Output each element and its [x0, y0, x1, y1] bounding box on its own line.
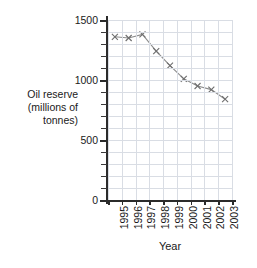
- y-axis-major-tick: [100, 200, 107, 202]
- gridline-vertical: [108, 20, 109, 200]
- data-point-marker: [153, 48, 159, 54]
- y-axis-tick-label: 500: [64, 135, 98, 145]
- gridline-horizontal: [108, 44, 232, 45]
- gridline-horizontal: [108, 68, 232, 69]
- x-axis-tick: [191, 200, 193, 205]
- x-axis-line: [106, 200, 236, 202]
- x-axis-tick-label: 1999: [174, 206, 185, 229]
- x-axis-tick: [204, 200, 206, 205]
- y-axis-minor-tick: [101, 176, 107, 177]
- plot-area: [108, 20, 232, 200]
- y-axis-tick-label: 1000: [64, 75, 98, 85]
- gridline-vertical: [232, 20, 233, 200]
- y-axis-major-tick: [100, 140, 107, 142]
- gridline-horizontal: [108, 140, 232, 141]
- y-axis-tick-labels: 050010001500: [62, 0, 98, 268]
- x-axis-tick-label: 2001: [202, 206, 213, 229]
- y-axis-minor-tick: [101, 104, 107, 105]
- gridline-horizontal: [108, 104, 232, 105]
- gridline-vertical: [122, 20, 123, 200]
- x-axis-tick-label: 2000: [188, 206, 199, 229]
- y-axis-minor-tick: [101, 116, 107, 117]
- x-axis-tick: [122, 200, 124, 205]
- x-axis-tick: [136, 200, 138, 205]
- x-axis-tick: [232, 200, 234, 205]
- x-axis-tick: [163, 200, 165, 205]
- y-axis-minor-tick: [101, 188, 107, 189]
- y-axis-minor-tick: [101, 44, 107, 45]
- gridline-horizontal: [108, 32, 232, 33]
- y-axis-minor-tick: [101, 68, 107, 69]
- x-axis-tick: [177, 200, 179, 205]
- x-axis-tick: [218, 200, 220, 205]
- gridline-horizontal: [108, 20, 232, 21]
- gridline-horizontal: [108, 80, 232, 81]
- x-axis-tick-label: 1997: [146, 206, 157, 229]
- y-axis-minor-tick: [101, 164, 107, 165]
- y-axis-tick-label: 0: [64, 195, 98, 205]
- x-axis-tick-label: 1995: [119, 206, 130, 229]
- x-axis-tick-label: 2002: [215, 206, 226, 229]
- y-axis-minor-tick: [101, 128, 107, 129]
- y-axis-tick-label: 1500: [64, 15, 98, 25]
- y-axis-minor-tick: [101, 92, 107, 93]
- gridline-horizontal: [108, 188, 232, 189]
- figure-caption: [0, 259, 257, 268]
- x-axis-tick-label: 1996: [133, 206, 144, 229]
- gridline-horizontal: [108, 116, 232, 117]
- gridline-vertical: [163, 20, 164, 200]
- gridline-horizontal: [108, 92, 232, 93]
- y-axis-minor-tick: [101, 56, 107, 57]
- y-axis-minor-tick: [101, 152, 107, 153]
- chart-figure: Oil reserve (millions of tonnes) 0500100…: [0, 0, 257, 268]
- gridline-vertical: [136, 20, 137, 200]
- gridline-horizontal: [108, 176, 232, 177]
- data-series-oil-reserve: [108, 20, 232, 200]
- data-point-marker: [222, 96, 228, 102]
- x-axis-tick-label: 2003: [229, 206, 240, 229]
- x-axis-title: Year: [108, 240, 232, 252]
- gridline-vertical: [204, 20, 205, 200]
- gridline-vertical: [191, 20, 192, 200]
- x-axis-tick-label: 1998: [160, 206, 171, 229]
- gridline-vertical: [177, 20, 178, 200]
- gridline-horizontal: [108, 128, 232, 129]
- gridline-horizontal: [108, 56, 232, 57]
- gridline-vertical: [218, 20, 219, 200]
- x-axis-tick: [149, 200, 151, 205]
- x-axis-tick: [108, 200, 110, 205]
- gridline-vertical: [149, 20, 150, 200]
- gridline-horizontal: [108, 152, 232, 153]
- gridline-horizontal: [108, 164, 232, 165]
- y-axis-minor-tick: [101, 32, 107, 33]
- y-axis-major-tick: [100, 20, 107, 22]
- y-axis-major-tick: [100, 80, 107, 82]
